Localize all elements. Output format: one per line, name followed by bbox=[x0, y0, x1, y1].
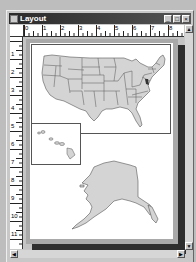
layout-window: Layout _ □ × 0 1 2 3 4 5 6 7 8 1 2 3 4 5… bbox=[6, 10, 194, 262]
us-states-map bbox=[32, 45, 170, 133]
ruler-ticks bbox=[10, 37, 22, 249]
scroll-up-button[interactable]: ▲ bbox=[185, 25, 193, 33]
ruler-corner bbox=[10, 25, 24, 37]
scroll-down-button[interactable]: ▼ bbox=[185, 242, 193, 250]
page[interactable] bbox=[30, 43, 173, 239]
scroll-right-button[interactable]: ▶ bbox=[177, 250, 185, 258]
vertical-scrollbar[interactable]: ▲ ▼ bbox=[185, 25, 193, 250]
scroll-left-button[interactable]: ◀ bbox=[10, 250, 18, 258]
close-button[interactable]: × bbox=[182, 15, 190, 23]
alaska-map[interactable] bbox=[60, 157, 168, 235]
contiguous-us-map[interactable] bbox=[31, 44, 171, 134]
alaska-shape bbox=[60, 157, 168, 235]
layout-canvas[interactable] bbox=[24, 37, 184, 249]
layout-icon bbox=[10, 15, 18, 23]
minimize-button[interactable]: _ bbox=[164, 15, 172, 23]
horizontal-scrollbar[interactable]: ◀ ▶ bbox=[10, 250, 185, 258]
horizontal-ruler: 0 1 2 3 4 5 6 7 8 bbox=[24, 25, 184, 37]
vertical-ruler: 1 2 3 4 5 6 7 8 9 10 11 bbox=[10, 37, 23, 249]
maximize-button[interactable]: □ bbox=[173, 15, 181, 23]
title-bar[interactable]: Layout _ □ × bbox=[9, 13, 191, 24]
window-title: Layout bbox=[20, 13, 46, 24]
ruler-ticks bbox=[24, 25, 184, 36]
page-frame bbox=[26, 39, 178, 244]
